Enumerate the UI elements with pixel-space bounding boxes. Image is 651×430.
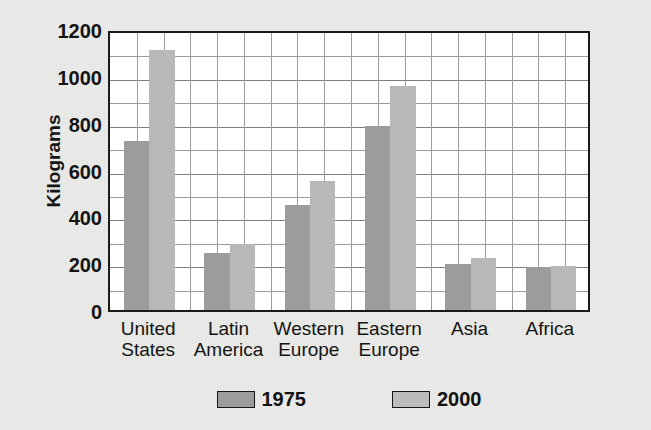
- y-tick-label: 800: [30, 115, 102, 135]
- x-axis-category-labels: United StatesLatin AmericaWestern Europe…: [108, 318, 590, 378]
- legend-swatch: [217, 391, 255, 408]
- bar: [445, 264, 470, 310]
- x-axis-label: Asia: [429, 318, 509, 339]
- bar: [471, 258, 496, 310]
- bar: [230, 244, 255, 310]
- x-axis-label: Latin America: [188, 318, 268, 361]
- chart-legend: 19752000: [108, 384, 590, 414]
- bar: [204, 253, 229, 310]
- y-tick-label: 1200: [30, 21, 102, 41]
- legend-label: 2000: [437, 389, 482, 409]
- legend-label: 1975: [262, 389, 307, 409]
- bar: [551, 266, 576, 310]
- x-axis-label: Western Europe: [269, 318, 349, 361]
- y-tick-label: 1000: [30, 68, 102, 88]
- y-axis-tick-labels: 120010008006004002000: [30, 22, 102, 312]
- bar: [124, 141, 149, 310]
- bar: [285, 205, 310, 310]
- legend-swatch: [392, 391, 430, 408]
- bar: [526, 267, 551, 310]
- y-tick-label: 200: [30, 255, 102, 275]
- legend-entry[interactable]: 1975: [217, 389, 307, 409]
- y-tick-label: 0: [30, 302, 102, 322]
- x-axis-label: Africa: [510, 318, 590, 339]
- plot-area: [108, 31, 590, 312]
- bars-group: [110, 33, 588, 310]
- legend-entry[interactable]: 2000: [392, 389, 482, 409]
- bar: [390, 86, 415, 310]
- x-axis-label: Eastern Europe: [349, 318, 429, 361]
- bar: [365, 126, 390, 310]
- bar: [149, 50, 174, 310]
- y-tick-label: 600: [30, 162, 102, 182]
- x-axis-label: United States: [108, 318, 188, 361]
- y-tick-label: 400: [30, 208, 102, 228]
- bar: [310, 181, 335, 310]
- bar-chart-figure: Kilograms 120010008006004002000 United S…: [0, 0, 651, 430]
